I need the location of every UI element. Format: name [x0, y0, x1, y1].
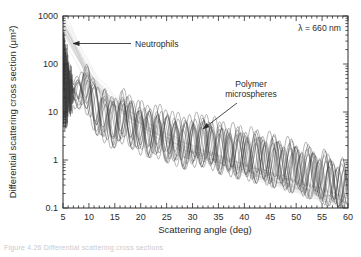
- polymer-microspheres-annotation-line2: microspheres: [225, 89, 277, 99]
- x-tick-label: 25: [162, 212, 172, 222]
- x-tick-label: 45: [265, 212, 275, 222]
- figure-container: 51015202530354045505560 0.11101001000 Sc…: [0, 0, 361, 257]
- x-tick-label: 40: [239, 212, 249, 222]
- y-tick-label: 10: [48, 107, 58, 117]
- polymer-microspheres-annotation-line1: Polymer: [235, 79, 267, 89]
- figure-caption: Figure 4.26 Differential scattering cros…: [4, 244, 163, 251]
- y-tick-label: 1000: [38, 11, 58, 21]
- x-tick-label: 5: [60, 212, 65, 222]
- x-tick-label: 60: [343, 212, 353, 222]
- neutrophils-annotation: Neutrophils: [135, 39, 178, 49]
- x-tick-label: 55: [317, 212, 327, 222]
- wavelength-annotation: λ = 660 nm: [298, 23, 341, 33]
- x-tick-label: 20: [136, 212, 146, 222]
- x-axis-label: Scattering angle (deg): [158, 224, 251, 235]
- x-tick-label: 50: [291, 212, 301, 222]
- x-tick-label: 15: [110, 212, 120, 222]
- x-tick-label: 10: [84, 212, 94, 222]
- scattering-cross-section-chart: 51015202530354045505560 0.11101001000 Sc…: [0, 0, 361, 257]
- y-tick-label: 0.1: [45, 203, 58, 213]
- y-axis-label: Differential scattering cross section (μ…: [7, 26, 18, 199]
- y-tick-label: 100: [43, 59, 58, 69]
- x-tick-label: 30: [188, 212, 198, 222]
- x-tick-label: 35: [213, 212, 223, 222]
- y-tick-label: 1: [53, 155, 58, 165]
